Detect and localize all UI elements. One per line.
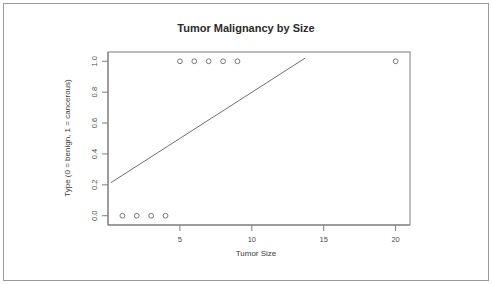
data-point [192, 59, 197, 64]
y-tick-label: 0.0 [90, 211, 99, 221]
data-point [393, 59, 398, 64]
data-point [149, 213, 154, 218]
x-axis-title: Tumor Size [236, 249, 277, 258]
x-tick-label: 5 [178, 235, 182, 244]
data-point [163, 213, 168, 218]
plot-frame [108, 52, 410, 225]
x-tick-label: 10 [248, 235, 256, 244]
chart-title: Tumor Malignancy by Size [177, 22, 314, 34]
y-axis-title: Type (0 = benign, 1 = cancerous) [63, 79, 72, 197]
screenshot-root: Tumor Malignancy by Size Tumor Size Type… [0, 0, 492, 284]
y-tick-label: 1.0 [90, 56, 99, 66]
data-point [206, 59, 211, 64]
data-point [235, 59, 240, 64]
data-point [134, 213, 139, 218]
y-tick-label: 0.4 [90, 149, 99, 159]
regression-line [111, 58, 305, 182]
data-point [178, 59, 183, 64]
x-tick-label: 15 [320, 235, 328, 244]
x-tick-label: 20 [391, 235, 399, 244]
data-point [120, 213, 125, 218]
y-tick-label: 0.2 [90, 180, 99, 190]
y-tick-label: 0.6 [90, 118, 99, 128]
x-axis-ticks: 5101520 [178, 225, 400, 244]
scatter-plot-figure: Tumor Malignancy by Size Tumor Size Type… [0, 0, 492, 284]
y-tick-label: 0.8 [90, 87, 99, 97]
data-points-group [120, 59, 398, 218]
y-axis-ticks: 0.00.20.40.60.81.0 [90, 56, 108, 221]
data-point [221, 59, 226, 64]
